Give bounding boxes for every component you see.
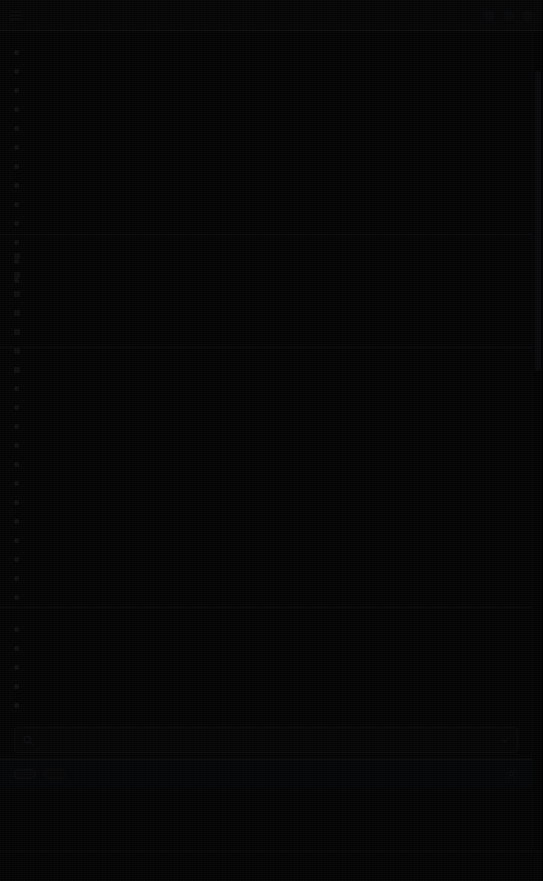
list-item[interactable]	[14, 214, 518, 233]
square-bullet-icon	[14, 291, 20, 297]
bullet-icon	[14, 164, 19, 169]
bullet-icon	[14, 665, 19, 670]
list-item[interactable]	[14, 100, 518, 119]
list-item[interactable]	[14, 43, 518, 62]
content-section-four	[0, 608, 532, 721]
list-item[interactable]	[14, 119, 518, 138]
chevron-down-icon[interactable]	[500, 736, 509, 745]
list-item[interactable]	[14, 455, 518, 474]
list-item[interactable]	[14, 531, 518, 550]
list-item[interactable]	[14, 157, 518, 176]
list-item[interactable]	[14, 176, 518, 195]
list-item[interactable]	[14, 398, 518, 417]
search-icon	[23, 735, 34, 746]
minimize-button[interactable]	[484, 10, 495, 21]
application-window	[0, 0, 543, 881]
bullet-icon	[14, 684, 19, 689]
list-item[interactable]	[14, 81, 518, 100]
bullet-icon	[14, 424, 19, 429]
list-item[interactable]	[14, 379, 518, 398]
bullet-icon	[14, 646, 19, 651]
bullet-icon	[14, 443, 19, 448]
bullet-icon	[14, 69, 19, 74]
bullet-icon	[14, 183, 19, 188]
content-section-two	[0, 235, 532, 348]
list-item[interactable]	[14, 658, 518, 677]
square-bullet-icon	[14, 329, 20, 335]
bullet-icon	[14, 202, 19, 207]
list-item[interactable]	[14, 138, 518, 157]
bullet-icon	[14, 107, 19, 112]
list-item[interactable]	[14, 285, 518, 304]
list-item[interactable]	[14, 696, 518, 715]
bullet-icon	[14, 367, 19, 372]
primary-action-button[interactable]	[14, 769, 36, 779]
status-bar	[0, 851, 543, 881]
square-bullet-icon	[14, 272, 20, 278]
text-input-field[interactable]	[14, 727, 518, 753]
square-bullet-icon	[14, 253, 20, 259]
list-item[interactable]	[14, 304, 518, 323]
list-item[interactable]	[14, 639, 518, 658]
list-item[interactable]	[14, 512, 518, 531]
bullet-icon	[14, 538, 19, 543]
bullet-icon	[14, 386, 19, 391]
bullet-icon	[14, 88, 19, 93]
bullet-icon	[14, 481, 19, 486]
bullet-icon	[14, 595, 19, 600]
list-item[interactable]	[14, 493, 518, 512]
list-item[interactable]	[14, 677, 518, 696]
app-menu-icon[interactable]	[10, 10, 21, 21]
bullet-icon	[14, 519, 19, 524]
list-item[interactable]	[14, 436, 518, 455]
square-bullet-icon	[14, 310, 20, 316]
bullet-icon	[14, 576, 19, 581]
list-item[interactable]	[14, 360, 518, 379]
secondary-action-button[interactable]	[44, 769, 66, 779]
bullet-icon	[14, 500, 19, 505]
list-item[interactable]	[14, 569, 518, 588]
bullet-icon	[14, 221, 19, 226]
title-bar	[0, 0, 543, 31]
list-item[interactable]	[14, 247, 518, 266]
list-item[interactable]	[14, 550, 518, 569]
list-item[interactable]	[14, 417, 518, 436]
scrollbar-thumb[interactable]	[535, 71, 541, 371]
vertical-scrollbar[interactable]	[532, 31, 543, 851]
close-button[interactable]	[522, 10, 533, 21]
list-item[interactable]	[14, 620, 518, 639]
bullet-icon	[14, 557, 19, 562]
scroll-area	[0, 31, 543, 851]
bullet-icon	[14, 50, 19, 55]
list-item[interactable]	[14, 266, 518, 285]
content-section-three	[0, 348, 532, 608]
maximize-button[interactable]	[503, 10, 514, 21]
bullet-icon	[14, 703, 19, 708]
list-item[interactable]	[14, 588, 518, 607]
list-item[interactable]	[14, 474, 518, 493]
gear-icon[interactable]	[505, 767, 518, 780]
bullet-icon	[14, 145, 19, 150]
bullet-icon	[14, 126, 19, 131]
bullet-icon	[14, 462, 19, 467]
content-section-one	[0, 31, 532, 235]
list-item[interactable]	[14, 195, 518, 214]
bullet-icon	[14, 627, 19, 632]
list-item[interactable]	[14, 62, 518, 81]
bullet-icon	[14, 405, 19, 410]
action-bar	[0, 759, 532, 787]
list-item[interactable]	[14, 323, 518, 342]
main-content	[0, 31, 532, 851]
